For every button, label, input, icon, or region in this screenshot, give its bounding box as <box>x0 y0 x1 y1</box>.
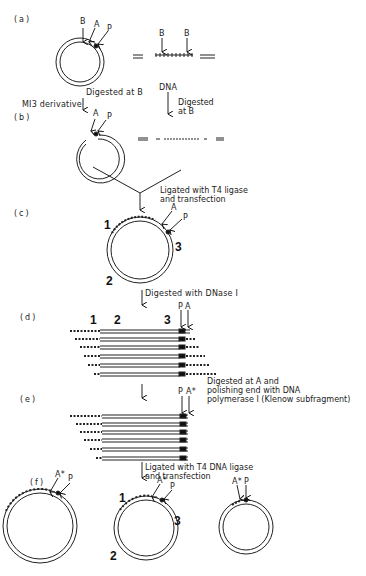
site-label-a-d: A <box>185 302 191 311</box>
site-label-p-c: P <box>183 213 188 222</box>
site-label-a-star-f2: A* <box>157 476 167 485</box>
site-label-a-star-f1: A* <box>55 470 65 479</box>
region-2-f: 2 <box>110 549 117 563</box>
m13-derivative-label: MI3 derivative <box>22 100 82 109</box>
product-plasmid-small <box>219 498 273 554</box>
site-label-a-star-f3: A* <box>232 477 242 486</box>
region-2-c: 2 <box>106 274 113 288</box>
site-label-p-e: P <box>178 387 183 396</box>
plasmid-b <box>77 132 125 183</box>
site-label-p-f2: P <box>170 482 175 491</box>
site-label-b-dna-2: B <box>184 29 190 38</box>
region-1-d: 1 <box>90 313 97 327</box>
insert-dna-a <box>133 54 215 58</box>
region-3-d: 3 <box>164 313 171 327</box>
site-label-p: P <box>107 24 112 33</box>
digested-at-b-dna-label: Digested at B <box>178 98 214 116</box>
step-label-e: (e) <box>20 395 37 404</box>
step-label-a: (a) <box>14 15 31 24</box>
dnase-label: Digested with DNase I <box>145 289 238 298</box>
region-2-d: 2 <box>114 313 121 327</box>
site-label-p-d: P <box>178 302 183 311</box>
digested-at-a-label: Digested at A and polishing end with DNA… <box>207 377 350 404</box>
step-label-d: (d) <box>20 313 37 322</box>
site-label-a-c: A <box>171 203 177 212</box>
site-label-p-f3: P <box>244 477 249 486</box>
site-label-a-b: A <box>93 109 99 118</box>
region-3-c: 3 <box>175 240 182 254</box>
insert-fragments-b <box>138 138 224 140</box>
step-label-b: (b) <box>14 113 31 122</box>
site-label-b-dna-1: B <box>159 29 165 38</box>
site-label-a: A <box>94 20 100 29</box>
site-label-b: B <box>80 17 86 26</box>
digested-at-b-label: Digested at B <box>86 88 143 97</box>
product-plasmid-large <box>3 489 77 563</box>
product-plasmid-medium <box>114 496 178 560</box>
ligation-label: Ligated with T4 ligase and transfection <box>160 186 248 204</box>
site-label-p-b: P <box>107 112 112 121</box>
step-label-c: (c) <box>14 209 31 218</box>
region-1-c: 1 <box>104 218 111 232</box>
site-label-a-star-e: A* <box>186 387 196 396</box>
region-1-f: 1 <box>119 491 126 505</box>
region-3-f: 3 <box>174 514 181 528</box>
recombinant-plasmid-c <box>107 217 173 283</box>
diagram-canvas <box>0 0 366 576</box>
deletion-fragments-e <box>70 414 188 460</box>
deletion-fragments-d <box>70 329 216 376</box>
plasmid-a <box>56 38 104 86</box>
dna-label: DNA <box>159 83 177 92</box>
site-label-p-f1: P <box>68 474 73 483</box>
step-label-f: (f) <box>30 478 45 487</box>
